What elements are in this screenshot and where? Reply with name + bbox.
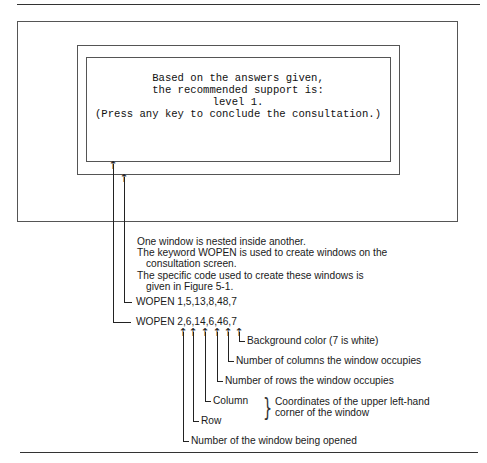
screen-line-4: (Press any key to conclude the consultat… [87, 108, 389, 120]
screen-line-1: Based on the answers given, [87, 72, 389, 84]
screen-line-2: the recommended support is: [87, 84, 389, 96]
label-column: Column [213, 395, 248, 407]
bottom-rule [20, 452, 478, 453]
label-window-number: Number of the window being opened [191, 435, 357, 447]
leader-window-2-tick [113, 322, 131, 323]
leader-columns [228, 332, 229, 361]
note-line-5: given in Figure 5-1. [146, 281, 233, 293]
note-line-2: The keyword WOPEN is used to create wind… [137, 247, 387, 259]
leader-column [205, 332, 206, 401]
screen-line-3: level 1. [87, 96, 389, 108]
label-rows: Number of rows the window occupies [225, 375, 394, 387]
leader-rows [217, 332, 218, 381]
screen-message: Based on the answers given,the recommend… [87, 72, 389, 120]
leader-window-number [183, 332, 184, 441]
code-wopen-1: WOPEN 1,5,13,8,48,7 [136, 296, 237, 308]
leader-background [239, 332, 240, 341]
top-rule [17, 4, 480, 5]
note-line-4: The specific code used to create these w… [137, 270, 364, 282]
tick-background [239, 341, 245, 342]
note-line-3: consultation screen. [146, 258, 237, 270]
label-background: Background color (7 is white) [247, 335, 378, 347]
label-row: Row [201, 415, 221, 427]
leader-window-1-tick [124, 302, 132, 303]
brace-icon: } [263, 396, 272, 420]
leader-window-1 [124, 177, 125, 302]
tick-window-number [183, 441, 189, 442]
tick-row [193, 421, 199, 422]
leader-window-2 [113, 164, 114, 323]
tick-columns [228, 361, 234, 362]
tick-rows [217, 381, 223, 382]
label-coordinates-line-2: corner of the window [275, 407, 369, 419]
note-line-1: One window is nested inside another. [137, 236, 306, 248]
tick-column [205, 401, 211, 402]
label-columns: Number of columns the window occupies [236, 355, 421, 367]
leader-row [193, 332, 194, 421]
